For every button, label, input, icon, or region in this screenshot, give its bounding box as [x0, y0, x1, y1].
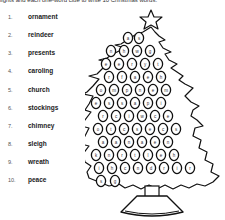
ornament-bulb-icon: g: [145, 45, 154, 56]
ornament-bulb-icon: w: [132, 45, 141, 56]
ornament-bulb-icon: o: [96, 84, 105, 95]
ornament-bulb-icon: a: [137, 136, 146, 147]
ornament-bulb-icon: f: [117, 71, 126, 82]
ornament-letter: l: [148, 153, 149, 158]
ornament-bulb-icon: e: [148, 84, 157, 95]
ornament-bulb-icon: i: [124, 110, 133, 121]
ornament-bulb-icon: n: [106, 45, 115, 56]
ornament-bulb-icon: e: [163, 110, 172, 121]
ornament-bulb-icon: s: [171, 123, 180, 134]
ornament-bulb-icon: n: [135, 84, 144, 95]
ornament-bulb-icon: l: [143, 149, 152, 160]
ornament-bulb-icon: e: [145, 123, 154, 134]
ornament-bulb-icon: r: [159, 162, 168, 173]
ornament-bulb-icon: i: [94, 162, 103, 173]
ornament-bulb-icon: h: [169, 149, 178, 160]
ornament-letter: i: [161, 101, 162, 106]
ornament-bulb-icon: k: [91, 149, 100, 160]
ornament-bulb-icon: c: [111, 110, 120, 121]
ornament-bulb-icon: t: [153, 58, 162, 69]
ornament-bulb-icon: m: [109, 84, 118, 95]
ornament-bulb-icon: r: [185, 162, 194, 173]
ornament-bulb-icon: c: [120, 162, 129, 173]
ornament-letter: m: [112, 88, 116, 93]
ornament-bulb-icon: s: [117, 97, 126, 108]
ornament-bulb-icon: e: [156, 149, 165, 160]
ornament-bulb-icon: c: [158, 123, 167, 134]
item-word: stockings: [28, 104, 58, 111]
list-item: 1.ornament: [0, 12, 80, 24]
ornament-bulb-icon: g: [110, 175, 119, 186]
ornament-bulb-icon: h: [119, 45, 128, 56]
ornament-bulb-icon: a: [111, 136, 120, 147]
ornament-bulb-icon: a: [130, 71, 139, 82]
ornament-bulb-icon: e: [114, 58, 123, 69]
ornament-bulb-icon: s: [104, 97, 113, 108]
ornament-bulb-icon: c: [119, 123, 128, 134]
ornament-bulb-icon: n: [124, 136, 133, 147]
ornament-bulb-icon: e: [143, 71, 152, 82]
item-word: sleigh: [28, 140, 47, 147]
list-item: 2.reindeer: [0, 30, 80, 42]
ornament-bulb-icon: a: [123, 32, 132, 43]
ornament-letter: i: [177, 166, 178, 171]
ornament-bulb-icon: p: [143, 97, 152, 108]
christmas-tree-icon: asnhwgeerytrfaehompnemessapirciwceotcsec…: [85, 8, 225, 220]
item-number: 2.: [8, 32, 13, 38]
ornament-bulb-icon: n: [163, 136, 172, 147]
item-number: 8.: [8, 141, 13, 147]
ornament-bulb-icon: e: [150, 136, 159, 147]
instructions-text: lights and each one-word clue to write 1…: [0, 0, 225, 3]
list-item: 10.peace: [0, 175, 80, 187]
item-word: presents: [28, 49, 55, 56]
ornament-bulb-icon: r: [104, 71, 113, 82]
item-number: 6.: [8, 105, 13, 111]
item-word: ornament: [28, 13, 58, 20]
ornament-bulb-icon: r: [127, 58, 136, 69]
list-item: 4.caroling: [0, 66, 80, 78]
ornament-bulb-icon: s: [96, 175, 105, 186]
list-item: 8.sleigh: [0, 139, 80, 151]
ornament-bulb-icon: p: [122, 84, 131, 95]
tree-stand-icon: [121, 196, 183, 216]
item-number: 10.: [8, 177, 16, 183]
list-item: 6.stockings: [0, 103, 80, 115]
ornament-bulb-icon: e: [91, 97, 100, 108]
item-word: reindeer: [28, 31, 54, 38]
list-item: 9.wreath: [0, 157, 80, 169]
ornament-bulb-icon: t: [106, 123, 115, 134]
list-item: 5.church: [0, 85, 80, 97]
christmas-tree: asnhwgeerytrfaehompnemessapirciwceotcsec…: [85, 8, 225, 220]
ornament-bulb-icon: y: [140, 58, 149, 69]
ornament-bulb-icon: r: [117, 149, 126, 160]
ornament-bulb-icon: w: [137, 110, 146, 121]
item-number: 3.: [8, 50, 13, 56]
item-number: 5.: [8, 87, 13, 93]
ornament-letter: m: [164, 88, 168, 93]
ornament-bulb-icon: s: [132, 123, 141, 134]
ornament-bulb-icon: i: [172, 162, 181, 173]
ornament-bulb-icon: m: [161, 84, 170, 95]
list-item: 7.chimney: [0, 121, 80, 133]
ornament-bulb-icon: c: [150, 110, 159, 121]
ornament-bulb-icon: i: [156, 97, 165, 108]
ornament-bulb-icon: n: [133, 162, 142, 173]
list-item: 3.presents: [0, 48, 80, 60]
item-number: 9.: [8, 159, 13, 165]
item-word: church: [28, 86, 50, 93]
ornament-bulb-icon: a: [130, 97, 139, 108]
ornament-bulb-icon: h: [107, 162, 116, 173]
ornament-bulb-icon: n: [104, 149, 113, 160]
ornament-bulb-icon: s: [134, 32, 143, 43]
item-word: chimney: [28, 122, 54, 129]
ornament-bulb-icon: o: [93, 123, 102, 134]
item-word: wreath: [28, 158, 49, 165]
item-number: 7.: [8, 123, 13, 129]
ornament-bulb-icon: a: [98, 136, 107, 147]
ornament-bulb-icon: h: [156, 71, 165, 82]
ornament-bulb-icon: r: [98, 110, 107, 121]
star-icon: [140, 10, 162, 29]
ornament-bulb-icon: t: [130, 149, 139, 160]
item-number: 1.: [8, 14, 13, 20]
ornament-letter: i: [99, 166, 100, 171]
